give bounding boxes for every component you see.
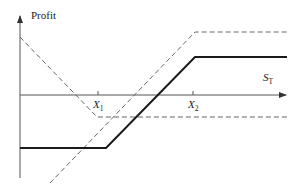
y-axis-label: Profit [31, 9, 56, 21]
dashed-put-line [20, 37, 287, 117]
x1-label-subscript: 1 [100, 104, 104, 113]
x2-label-subscript: 2 [195, 104, 199, 113]
x2-label: X2 [187, 98, 199, 113]
x-axis-label: ST [263, 71, 274, 86]
dashed-call-line [50, 32, 287, 183]
payoff-diagram: Profit ST X1 X2 [0, 0, 299, 189]
x1-label: X1 [92, 98, 104, 113]
solid-profit-line [20, 57, 287, 148]
x-axis-label-subscript: T [269, 77, 274, 86]
